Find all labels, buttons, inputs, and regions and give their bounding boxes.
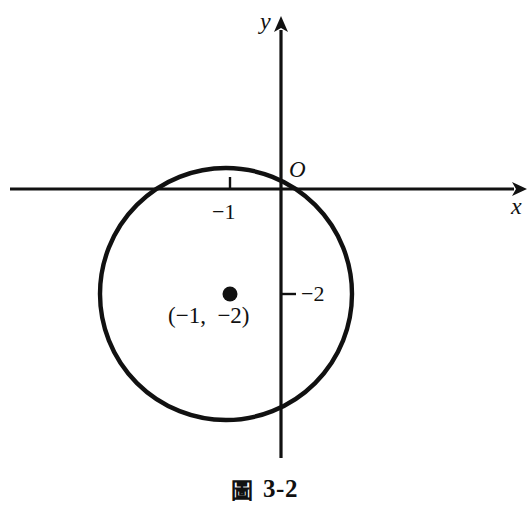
y-axis-arrowhead xyxy=(274,16,288,32)
figure-caption-cjk: 圖 xyxy=(231,478,253,503)
figure-caption-number: 3-2 xyxy=(263,475,298,502)
coordinate-plane-diagram xyxy=(0,0,529,523)
center-point-dot xyxy=(223,287,238,302)
origin-label: O xyxy=(289,158,306,181)
center-point-label: (−1, −2) xyxy=(168,304,250,327)
y-tick-label-minus2: −2 xyxy=(301,283,324,305)
figure-caption: 圖3-2 xyxy=(0,476,529,502)
x-axis-label: x xyxy=(511,194,522,218)
figure-3-2: y x O −1 −2 (−1, −2) 圖3-2 xyxy=(0,0,529,523)
x-tick-label-minus1: −1 xyxy=(212,201,235,223)
y-axis-label: y xyxy=(260,9,271,33)
